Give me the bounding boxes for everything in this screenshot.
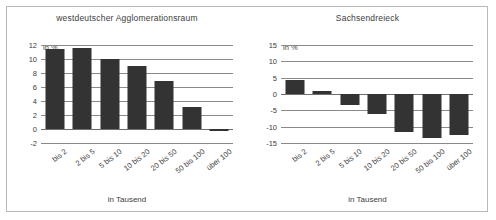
gridline: -2 bbox=[41, 143, 233, 144]
x-axis-tick-label: 10 bis 20 bbox=[122, 147, 152, 173]
x-axis-title-west: in Tausend bbox=[7, 195, 247, 204]
y-axis-tick-label: 5 bbox=[273, 73, 277, 82]
plot-area-west: 121086420-2 bbox=[41, 45, 233, 143]
x-axis-tick-label: bis 2 bbox=[291, 147, 309, 164]
gridline: -15 bbox=[281, 143, 473, 144]
bar[interactable] bbox=[73, 48, 92, 129]
plot-area-sachsendreieck: 151050-5-10-15 bbox=[281, 45, 473, 143]
bar-slot bbox=[308, 45, 335, 143]
bar[interactable] bbox=[182, 107, 201, 129]
bar-slot bbox=[281, 45, 308, 143]
bar[interactable] bbox=[155, 81, 174, 129]
chart-title-sachsendreieck: Sachsendreieck bbox=[247, 13, 488, 23]
y-axis-tick-label: 15 bbox=[269, 41, 277, 50]
x-axis-tick-label: bis 2 bbox=[51, 147, 69, 164]
chart-panel-sachsendreieck: Sachsendreieck in % 151050-5-10-15 bis 2… bbox=[247, 7, 488, 211]
y-axis-tick-label: 8 bbox=[33, 69, 37, 78]
bar[interactable] bbox=[367, 94, 386, 114]
chart-title-west: westdeutscher Agglomerationsraum bbox=[7, 13, 247, 23]
x-axis-tick-label: 5 bis 10 bbox=[98, 147, 124, 170]
bar-group-sachsendreieck bbox=[281, 45, 473, 143]
bar[interactable] bbox=[210, 129, 229, 131]
x-axis-tick-label: über 100 bbox=[445, 147, 474, 172]
bar[interactable] bbox=[127, 66, 146, 129]
y-axis-tick-label: -5 bbox=[270, 106, 277, 115]
bar-slot bbox=[96, 45, 123, 143]
bar-slot bbox=[41, 45, 68, 143]
y-axis-tick-label: 0 bbox=[273, 90, 277, 99]
x-axis-tick-label: 10 bis 20 bbox=[362, 147, 392, 173]
y-axis-tick-label: 0 bbox=[33, 125, 37, 134]
y-axis-tick-label: 4 bbox=[33, 97, 37, 106]
bar[interactable] bbox=[285, 80, 304, 94]
bar[interactable] bbox=[100, 59, 119, 129]
bar-slot bbox=[206, 45, 233, 143]
bar-slot bbox=[123, 45, 150, 143]
x-axis-tick-label: über 100 bbox=[205, 147, 234, 172]
bar[interactable] bbox=[340, 94, 359, 105]
y-axis-tick-label: 12 bbox=[29, 41, 37, 50]
bar[interactable] bbox=[450, 94, 469, 135]
bar[interactable] bbox=[313, 91, 332, 94]
x-axis-tick-label: 2 bis 5 bbox=[313, 147, 336, 168]
bar-slot bbox=[418, 45, 445, 143]
y-axis-tick-label: 2 bbox=[33, 111, 37, 120]
bar-slot bbox=[446, 45, 473, 143]
x-axis-tick-label: 5 bis 10 bbox=[338, 147, 364, 170]
bar-slot bbox=[336, 45, 363, 143]
bar-slot bbox=[68, 45, 95, 143]
y-axis-tick-label: -10 bbox=[266, 122, 277, 131]
x-axis-tick-label: 50 bis 100 bbox=[413, 147, 446, 175]
bar-slot bbox=[391, 45, 418, 143]
x-axis-title-sachsendreieck: in Tausend bbox=[247, 195, 488, 204]
bar-slot bbox=[151, 45, 178, 143]
bar-slot bbox=[363, 45, 390, 143]
x-axis-tick-label: 50 bis 100 bbox=[173, 147, 206, 175]
bar-group-west bbox=[41, 45, 233, 143]
y-axis-tick-label: 10 bbox=[269, 57, 277, 66]
y-axis-tick-label: 6 bbox=[33, 83, 37, 92]
figure-frame: westdeutscher Agglomerationsraum in % 12… bbox=[6, 6, 488, 212]
bar[interactable] bbox=[422, 94, 441, 138]
bar[interactable] bbox=[395, 94, 414, 132]
y-axis-tick-label: 10 bbox=[29, 55, 37, 64]
bar-slot bbox=[178, 45, 205, 143]
x-axis-tick-label: 2 bis 5 bbox=[73, 147, 96, 168]
y-axis-tick-label: -15 bbox=[266, 139, 277, 148]
chart-panel-west: westdeutscher Agglomerationsraum in % 12… bbox=[7, 7, 247, 211]
bar[interactable] bbox=[45, 49, 64, 130]
y-axis-tick-label: -2 bbox=[30, 139, 37, 148]
